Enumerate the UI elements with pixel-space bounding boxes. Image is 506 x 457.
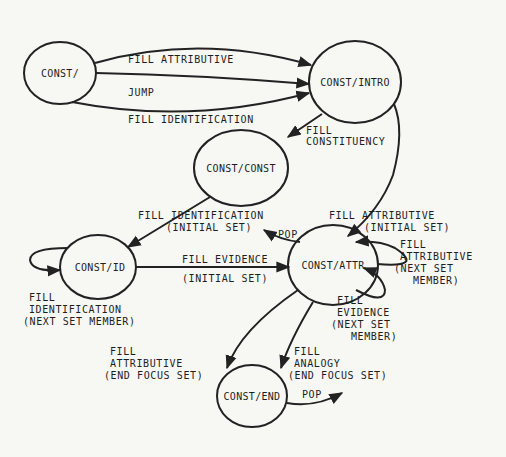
- edge-attr-self-loop-evidence: FILL EVIDENCE (NEXT SET MEMBER): [331, 268, 397, 342]
- svg-text:FILL: FILL: [29, 292, 55, 303]
- svg-text:(INITIAL SET): (INITIAL SET): [182, 273, 268, 284]
- svg-text:FILL EVIDENCE: FILL EVIDENCE: [182, 254, 268, 265]
- edge-fill-evidence-initial: FILL EVIDENCE (INITIAL SET): [136, 254, 289, 284]
- node-label-const-id: CONST/ID: [75, 262, 126, 273]
- arrow-icon: [72, 93, 309, 112]
- svg-text:FILL IDENTIFICATION: FILL IDENTIFICATION: [138, 210, 264, 221]
- edge-jump: JUMP: [96, 73, 309, 98]
- node-const: CONST/: [24, 42, 96, 104]
- svg-text:ATTRIBUTIVE: ATTRIBUTIVE: [400, 251, 473, 262]
- node-const-end: CONST/END: [217, 365, 287, 427]
- node-label-const-attr: CONST/ATTR: [301, 260, 365, 271]
- svg-text:FILL: FILL: [306, 125, 332, 136]
- svg-text:(END FOCUS SET): (END FOCUS SET): [288, 370, 387, 381]
- svg-text:(NEXT SET: (NEXT SET: [331, 319, 391, 330]
- svg-text:ANALOGY: ANALOGY: [294, 358, 340, 369]
- edge-fill-attributive-initial: FILL ATTRIBUTIVE (INITIAL SET): [329, 104, 450, 236]
- edge-pop-end: POP: [287, 389, 342, 404]
- svg-text:(INITIAL SET): (INITIAL SET): [166, 222, 252, 233]
- svg-text:ATTRIBUTIVE: ATTRIBUTIVE: [110, 358, 183, 369]
- edge-id-self-loop: FILL IDENTIFICATION (NEXT SET MEMBER): [23, 248, 136, 327]
- svg-text:(INITIAL SET): (INITIAL SET): [364, 222, 450, 233]
- node-label-const: CONST/: [41, 68, 79, 79]
- svg-text:(END FOCUS SET): (END FOCUS SET): [104, 370, 203, 381]
- edge-fill-attributive: FILL ATTRIBUTIVE: [95, 48, 311, 65]
- node-label-const-end: CONST/END: [224, 391, 281, 402]
- arrow-icon: [96, 73, 309, 84]
- node-label-const-intro: CONST/INTRO: [320, 77, 390, 88]
- svg-text:FILL ATTRIBUTIVE: FILL ATTRIBUTIVE: [128, 54, 234, 65]
- edge-pop-attr: POP: [264, 229, 300, 242]
- node-const-intro: CONST/INTRO: [309, 41, 401, 123]
- arrow-icon: [30, 248, 68, 270]
- svg-text:FILL ATTRIBUTIVE: FILL ATTRIBUTIVE: [329, 210, 435, 221]
- svg-text:FILL: FILL: [337, 295, 363, 306]
- svg-text:FILL: FILL: [294, 346, 320, 357]
- svg-text:POP: POP: [278, 229, 298, 240]
- svg-text:FILL: FILL: [400, 239, 426, 250]
- arrow-icon: [356, 268, 385, 298]
- svg-text:FILL IDENTIFICATION: FILL IDENTIFICATION: [128, 114, 254, 125]
- node-const-const: CONST/CONST: [194, 130, 288, 206]
- svg-text:FILL: FILL: [110, 346, 136, 357]
- state-diagram: CONST/ CONST/INTRO CONST/CONST CONST/ID …: [0, 0, 506, 457]
- svg-text:MEMBER): MEMBER): [351, 331, 397, 342]
- edge-fill-identification: FILL IDENTIFICATION: [72, 93, 309, 125]
- node-label-const-const: CONST/CONST: [206, 163, 276, 174]
- node-const-id: CONST/ID: [60, 235, 136, 299]
- svg-text:MEMBER): MEMBER): [413, 275, 459, 286]
- svg-text:JUMP: JUMP: [128, 87, 154, 98]
- svg-text:(NEXT SET: (NEXT SET: [394, 263, 454, 274]
- svg-text:EVIDENCE: EVIDENCE: [337, 307, 390, 318]
- svg-text:CONSTITUENCY: CONSTITUENCY: [306, 136, 385, 147]
- edge-fill-attributive-end: FILL ATTRIBUTIVE (END FOCUS SET): [104, 290, 298, 381]
- svg-text:(NEXT SET MEMBER): (NEXT SET MEMBER): [23, 316, 136, 327]
- arrow-icon: [227, 290, 298, 368]
- svg-text:IDENTIFICATION: IDENTIFICATION: [29, 304, 122, 315]
- svg-text:POP: POP: [302, 389, 322, 400]
- edge-fill-identification-initial: FILL IDENTIFICATION (INITIAL SET): [128, 197, 264, 247]
